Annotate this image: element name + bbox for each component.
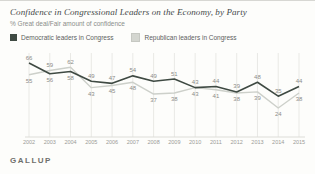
x-axis-year-label: 2015 [293,139,305,145]
data-point-label: 59 [46,62,53,68]
data-point-label: 38 [296,96,303,102]
data-point-label: 62 [67,59,74,65]
x-axis-year-label: 2008 [147,139,159,145]
chart-title: Confidence in Congressional Leaders on t… [10,7,310,17]
data-point-label: 44 [213,78,220,84]
x-axis-year-label: 2002 [23,139,35,145]
legend-label-republican: Republican leaders in Congress [144,34,236,41]
data-point-label: 41 [213,93,220,99]
data-point-label: 37 [150,97,157,103]
data-point-label: 55 [26,78,33,84]
x-axis-year-label: 2010 [189,139,201,145]
data-point-label: 38 [171,96,178,102]
data-point-label: 39 [254,95,261,101]
data-point-label: 48 [130,85,137,91]
x-axis-year-label: 2006 [106,139,118,145]
trend-line-chart: 2002200320042005200620072008200920102011… [0,49,315,151]
chart-legend: Democratic leaders in Congress Republica… [10,32,310,42]
x-axis-year-label: 2012 [231,139,243,145]
democratic-swatch-icon [10,34,17,41]
republican-swatch-icon [131,33,140,42]
data-point-label: 49 [88,73,95,79]
x-axis-year-label: 2011 [210,139,222,145]
gallup-chart-card: Confidence in Congressional Leaders on t… [0,0,315,174]
data-point-label: 48 [254,74,261,80]
data-point-label: 38 [233,96,240,102]
chart-subtitle: % Great deal/Fair amount of confidence [10,20,310,27]
data-point-label: 66 [26,55,33,61]
data-point-label: 35 [275,88,282,94]
data-point-label: 43 [192,91,199,97]
data-point-label: 44 [296,78,303,84]
data-point-label: 49 [150,73,157,79]
x-axis-year-label: 2004 [64,139,76,145]
x-axis-year-label: 2009 [168,139,180,145]
x-axis-year-label: 2007 [127,139,139,145]
data-point-label: 56 [46,77,53,83]
data-point-label: 54 [130,67,137,73]
x-axis-year-label: 2014 [272,139,284,145]
data-point-label: 39 [233,83,240,89]
x-axis-year-label: 2003 [44,139,56,145]
gallup-wordmark: GALLUP [10,156,52,165]
x-axis-year-label: 2005 [85,139,97,145]
data-point-label: 45 [109,88,116,94]
data-point-label: 43 [192,79,199,85]
data-point-label: 58 [67,75,74,81]
data-point-label: 47 [109,75,116,81]
legend-item-democratic: Democratic leaders in Congress [10,34,113,41]
data-point-label: 51 [171,71,178,77]
data-point-label: 24 [275,111,282,117]
x-axis-year-label: 2013 [251,139,263,145]
legend-label-democratic: Democratic leaders in Congress [21,34,113,41]
data-point-label: 43 [88,91,95,97]
legend-item-republican: Republican leaders in Congress [131,33,236,42]
